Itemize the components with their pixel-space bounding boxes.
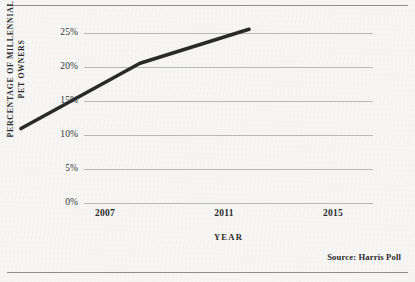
x-axis-tick-label: 2007 [70,208,140,218]
chart-figure: PERCENTAGE OF MILLENNIAL PET OWNERS 0%5%… [0,0,415,282]
bottom-divider-rule [7,272,408,273]
x-axis-title: YEAR [84,232,373,242]
x-axis-tick-labels: 200720112015 [0,208,415,222]
source-note: Source: Harris Poll [327,252,401,262]
x-axis-tick-label: 2015 [298,208,368,218]
x-axis-tick-label: 2011 [189,208,259,218]
